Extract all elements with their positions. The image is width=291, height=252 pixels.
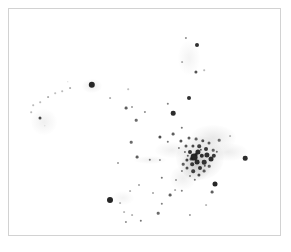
scatter-figure	[0, 0, 291, 252]
plot-frame-border	[8, 8, 281, 236]
caption-strip	[0, 238, 291, 252]
